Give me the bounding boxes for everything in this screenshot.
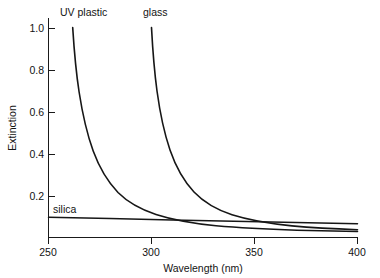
y-tick-label-0-2: 0.2: [29, 190, 44, 202]
series-label-uv-plastic: UV plastic: [60, 6, 107, 18]
x-tick-label-300: 300: [142, 246, 160, 258]
x-axis-ticks: [49, 238, 358, 244]
x-tick-label-400: 400: [348, 246, 366, 258]
y-axis-title: Extinction: [6, 105, 18, 151]
axis-lines: [49, 18, 358, 238]
x-tick-label-250: 250: [39, 246, 57, 258]
series-label-glass: glass: [143, 6, 168, 18]
y-tick-label-0-8: 0.8: [29, 64, 44, 76]
y-axis-ticks: [49, 29, 55, 197]
x-tick-label-350: 350: [245, 246, 263, 258]
y-tick-label-0-6: 0.6: [29, 106, 44, 118]
series-label-silica: silica: [53, 203, 76, 215]
curve-silica: [49, 217, 358, 224]
curve-uv-plastic: [73, 28, 358, 232]
extinction-vs-wavelength-chart: 1.0 0.8 0.6 0.4 0.2 250 300 350 400 Wave…: [0, 0, 380, 278]
x-axis-title: Wavelength (nm): [163, 262, 243, 274]
chart-figure: 1.0 0.8 0.6 0.4 0.2 250 300 350 400 Wave…: [0, 0, 380, 278]
y-tick-label-1-0: 1.0: [29, 22, 44, 34]
curve-glass: [152, 28, 358, 230]
y-tick-label-0-4: 0.4: [29, 148, 44, 160]
